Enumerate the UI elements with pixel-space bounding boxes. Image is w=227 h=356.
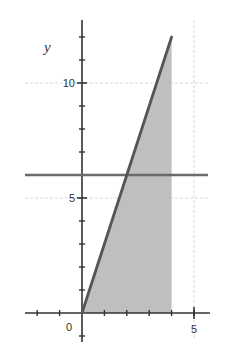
chart-canvas: 51005 y: [0, 0, 227, 356]
y-tick-label: 5: [69, 192, 75, 204]
x-tick-label: 0: [66, 321, 72, 333]
x-tick-label: 5: [191, 323, 197, 335]
y-axis-label: y: [42, 39, 51, 55]
y-tick-label: 10: [63, 77, 75, 89]
